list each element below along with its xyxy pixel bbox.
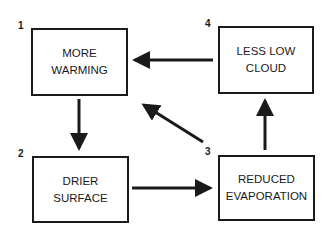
node-4-number: 4 xyxy=(205,18,211,29)
node-more-warming: MORE WARMING xyxy=(31,28,128,96)
node-3-line1: REDUCED xyxy=(238,171,295,188)
node-3-number: 3 xyxy=(205,146,211,157)
node-less-low-cloud: LESS LOW CLOUD xyxy=(218,26,314,94)
node-4-line2: CLOUD xyxy=(246,60,286,77)
node-1-line2: WARMING xyxy=(51,62,107,79)
node-2-number: 2 xyxy=(18,148,24,159)
node-2-line2: SURFACE xyxy=(53,190,107,207)
node-drier-surface: DRIER SURFACE xyxy=(32,156,129,223)
node-1-number: 1 xyxy=(18,20,24,31)
node-1-line1: MORE xyxy=(62,45,97,62)
arrow-3-to-1 xyxy=(144,105,203,142)
node-4-line1: LESS LOW xyxy=(237,43,296,60)
node-2-line1: DRIER xyxy=(63,173,99,190)
node-reduced-evaporation: REDUCED EVAPORATION xyxy=(218,155,315,221)
node-3-line2: EVAPORATION xyxy=(226,188,307,205)
